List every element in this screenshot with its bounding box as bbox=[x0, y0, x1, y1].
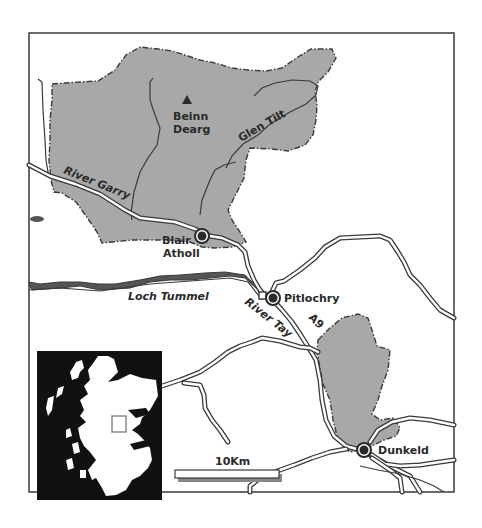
town-pitlochry[interactable] bbox=[266, 291, 280, 305]
dam-icon bbox=[259, 292, 266, 299]
label-loch-tummel: Loch Tummel bbox=[128, 290, 209, 303]
town-blair-atholl[interactable] bbox=[195, 229, 209, 243]
label-atholl: Atholl bbox=[163, 247, 200, 260]
small-lochan bbox=[30, 216, 44, 222]
label-beinn: Beinn bbox=[173, 110, 208, 123]
label-dunkeld: Dunkeld bbox=[378, 444, 429, 457]
scale-bar-label: 10Km bbox=[215, 455, 250, 468]
inset-locator-map bbox=[37, 351, 162, 500]
label-dearg: Dearg bbox=[173, 123, 210, 136]
town-dunkeld[interactable] bbox=[357, 443, 371, 457]
label-blair: Blair bbox=[162, 234, 191, 247]
map: Beinn Dearg Glen Tilt River Garry Blair … bbox=[0, 0, 482, 528]
label-pitlochry: Pitlochry bbox=[284, 292, 339, 305]
